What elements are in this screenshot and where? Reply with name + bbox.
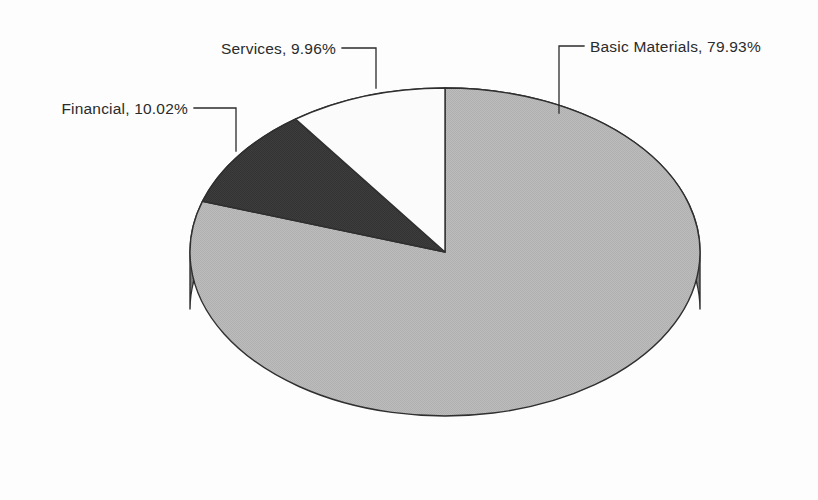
pie-label-basic-materials: Basic Materials, 79.93% [590, 38, 761, 55]
pie-chart-3d: Basic Materials, 79.93% Services, 9.96% … [0, 0, 818, 500]
pie-top-face-group [190, 88, 700, 416]
leader-line-services [342, 48, 376, 88]
pie-label-financial: Financial, 10.02% [61, 100, 188, 117]
leader-line-basic-materials [559, 46, 584, 113]
leader-line-financial [194, 108, 236, 151]
chart-canvas: Basic Materials, 79.93% Services, 9.96% … [0, 0, 818, 500]
pie-label-services: Services, 9.96% [221, 40, 336, 57]
